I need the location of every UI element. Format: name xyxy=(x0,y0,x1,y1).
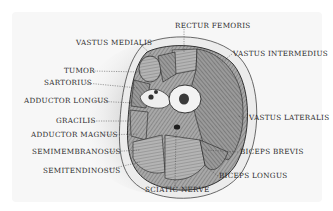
label-semitendinosus: SEMITENDINOSUS xyxy=(43,167,121,175)
label-semimembranosus: SEMIMEMBRANOSUS xyxy=(32,148,121,156)
label-adductor-longus: ADDUCTOR LONGUS xyxy=(24,97,109,105)
tumor-region xyxy=(139,56,161,82)
muscle-compartments xyxy=(127,46,247,191)
label-biceps-brevis: BICEPS BREVIS xyxy=(240,148,304,156)
gracilis-region xyxy=(130,110,148,140)
sciatic-nerve-dot xyxy=(174,124,180,129)
label-adductor-magnus: ADDUCTOR MAGNUS xyxy=(31,131,118,139)
label-sartorius: SARTORIUS xyxy=(44,79,92,87)
label-rectur-femoris: RECTUR FEMORIS xyxy=(175,22,251,30)
label-tumor: TUMOR xyxy=(64,67,95,75)
bone-marrow xyxy=(179,94,189,105)
label-vastus-lateralis: VASTUS LATERALIS xyxy=(249,114,329,122)
label-biceps-longus: BICEPS LONGUS xyxy=(219,172,288,180)
label-gracilis: GRACILIS xyxy=(56,117,96,125)
label-vastus-intermedius: VASTUS INTERMEDIUS xyxy=(233,50,328,58)
label-sciatic-nerve: SCIATIC NERVE xyxy=(145,186,210,194)
label-vastus-medialis: VASTUS MEDIALIS xyxy=(76,39,152,47)
